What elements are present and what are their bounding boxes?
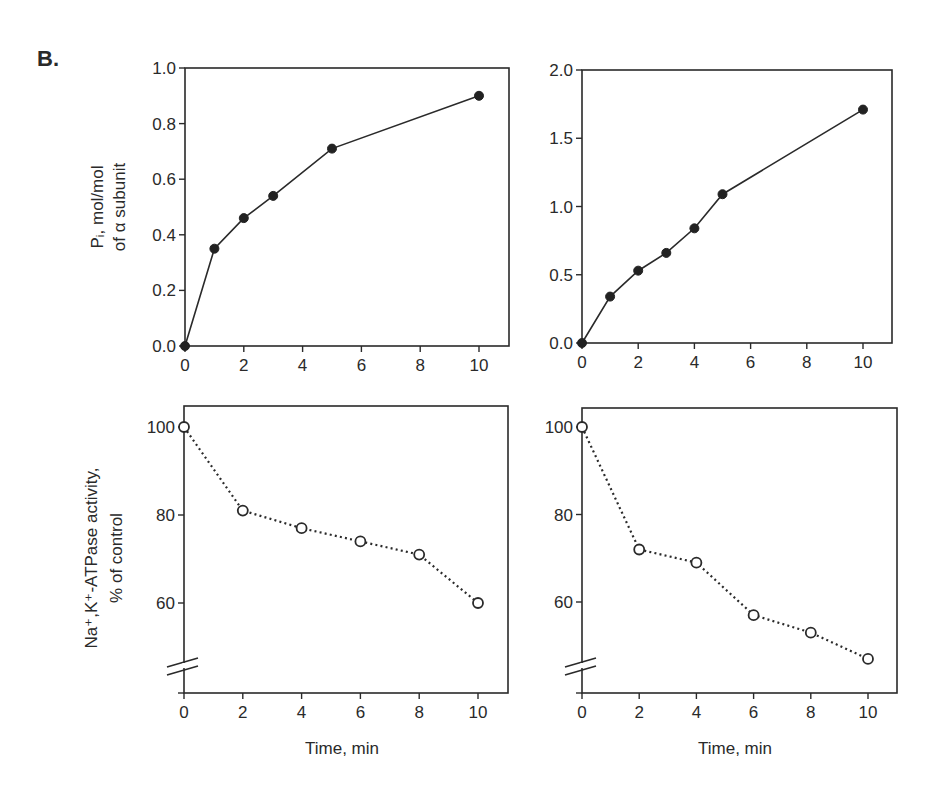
y-tick-label: 0.0 xyxy=(549,334,573,353)
x-tick-label: 10 xyxy=(854,353,873,372)
data-point xyxy=(691,558,701,568)
data-point xyxy=(179,422,189,432)
y-tick-label: 0.5 xyxy=(549,266,573,285)
x-tick-label: 6 xyxy=(356,703,365,722)
data-series-line xyxy=(582,110,863,343)
data-point xyxy=(577,422,587,432)
x-tick-label: 2 xyxy=(633,353,642,372)
plot-frame xyxy=(582,408,897,693)
data-point xyxy=(863,654,873,664)
data-point xyxy=(355,536,365,546)
data-point xyxy=(210,244,219,253)
data-point xyxy=(238,506,248,516)
x-tick-label: 8 xyxy=(415,356,424,375)
data-point xyxy=(475,91,484,100)
data-point xyxy=(606,292,615,301)
data-point xyxy=(473,598,483,608)
y-axis-title-line-1: Pᵢ, mol/mol xyxy=(88,166,107,249)
plot-frame xyxy=(185,68,509,346)
data-series-line xyxy=(582,427,868,659)
x-tick-label: 4 xyxy=(692,703,701,722)
y-axis-title-line-1: Na⁺,K⁺-ATPase activity, xyxy=(82,468,101,649)
y-tick-label: 100 xyxy=(147,418,175,437)
x-tick-label: 0 xyxy=(577,703,586,722)
x-tick-label: 2 xyxy=(239,356,248,375)
y-tick-label: 2.0 xyxy=(549,61,573,80)
data-point xyxy=(239,214,248,223)
data-point xyxy=(690,224,699,233)
x-tick-label: 8 xyxy=(414,703,423,722)
data-point xyxy=(181,342,190,351)
y-tick-label: 0.6 xyxy=(152,170,176,189)
x-axis-title-bottom-left: Time, min xyxy=(305,739,379,758)
data-series-line xyxy=(185,96,479,346)
x-tick-label: 4 xyxy=(690,353,699,372)
data-point xyxy=(718,190,727,199)
plot-frame xyxy=(184,406,508,693)
data-point xyxy=(634,545,644,555)
data-point xyxy=(859,105,868,114)
y-tick-label: 60 xyxy=(156,594,175,613)
x-tick-label: 10 xyxy=(470,356,489,375)
x-tick-label: 2 xyxy=(634,703,643,722)
y-axis-title-line-2: % of control xyxy=(107,513,126,603)
chart-panel-bottom-left: 02468106080100 xyxy=(147,406,508,722)
data-series-line xyxy=(184,427,478,603)
x-tick-label: 8 xyxy=(806,703,815,722)
y-tick-label: 1.0 xyxy=(549,198,573,217)
data-point xyxy=(414,550,424,560)
y-tick-label: 100 xyxy=(545,418,573,437)
y-tick-label: 0.4 xyxy=(152,226,176,245)
y-tick-label: 60 xyxy=(554,593,573,612)
x-tick-label: 6 xyxy=(746,353,755,372)
y-axis-title-top: Pᵢ, mol/mol of α subunit xyxy=(88,163,129,252)
panel-label: B. xyxy=(37,46,59,71)
x-tick-label: 4 xyxy=(297,703,306,722)
x-tick-label: 10 xyxy=(469,703,488,722)
x-tick-label: 0 xyxy=(577,353,586,372)
data-point xyxy=(806,628,816,638)
data-point xyxy=(328,144,337,153)
y-tick-label: 0.2 xyxy=(152,281,176,300)
y-tick-label: 0.0 xyxy=(152,337,176,356)
data-point xyxy=(297,523,307,533)
x-tick-label: 0 xyxy=(180,356,189,375)
data-point xyxy=(269,191,278,200)
chart-panel-top-right: 02468100.00.51.01.52.0 xyxy=(549,61,892,372)
y-axis-title-bottom: Na⁺,K⁺-ATPase activity, % of control xyxy=(82,468,126,649)
x-tick-label: 2 xyxy=(238,703,247,722)
y-tick-label: 1.5 xyxy=(549,129,573,148)
y-tick-label: 0.8 xyxy=(152,115,176,134)
x-tick-label: 6 xyxy=(749,703,758,722)
chart-panel-top-left: 02468100.00.20.40.60.81.0 xyxy=(152,59,509,375)
data-point xyxy=(662,248,671,257)
y-tick-label: 80 xyxy=(156,506,175,525)
x-tick-label: 4 xyxy=(298,356,307,375)
chart-panel-bottom-right: 02468106080100 xyxy=(545,408,897,722)
data-point xyxy=(749,610,759,620)
x-axis-title-bottom-right: Time, min xyxy=(698,739,772,758)
data-point xyxy=(578,339,587,348)
data-point xyxy=(634,266,643,275)
y-axis-title-line-2: of α subunit xyxy=(110,163,129,252)
figure: B. 02468100.00.20.40.60.81.0 02468100.00… xyxy=(0,0,930,792)
plot-frame xyxy=(582,70,892,343)
x-tick-label: 8 xyxy=(802,353,811,372)
x-tick-label: 6 xyxy=(357,356,366,375)
x-tick-label: 10 xyxy=(859,703,878,722)
y-tick-label: 1.0 xyxy=(152,59,176,78)
y-tick-label: 80 xyxy=(554,506,573,525)
x-tick-label: 0 xyxy=(179,703,188,722)
